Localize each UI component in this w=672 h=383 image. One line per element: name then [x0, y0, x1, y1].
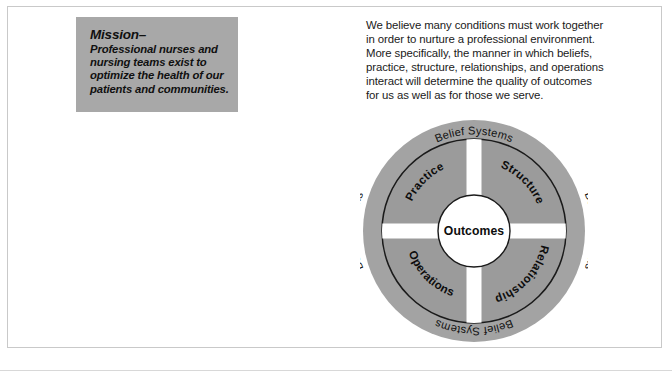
- mission-body: Professional nurses and nursing teams ex…: [90, 43, 229, 97]
- mission-title: Mission–: [90, 27, 229, 43]
- outcomes-label: Outcomes: [444, 224, 505, 238]
- belief-systems-wheel-diagram: Belief Systems Belief Systems Belief Sys…: [360, 117, 588, 345]
- mission-statement-box: Mission– Professional nurses and nursing…: [76, 17, 238, 112]
- footer-divider: [0, 370, 672, 371]
- intro-paragraph: We believe many conditions must work tog…: [366, 18, 646, 103]
- page-canvas: Mission– Professional nurses and nursing…: [0, 0, 672, 383]
